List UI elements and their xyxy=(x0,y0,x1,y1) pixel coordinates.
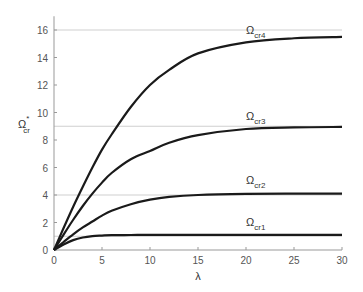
x-tick-label: 10 xyxy=(144,255,156,266)
y-tick-label: 16 xyxy=(37,25,49,36)
y-tick-label: 6 xyxy=(42,163,48,174)
y-tick-label: 8 xyxy=(42,135,48,146)
series-line-Ωcr3 xyxy=(54,127,342,250)
x-tick-label: 15 xyxy=(192,255,204,266)
x-tick-label: 25 xyxy=(288,255,300,266)
x-tick-label: 0 xyxy=(51,255,57,266)
x-tick-label: 5 xyxy=(99,255,105,266)
chart-container: 0510152025300246810121416λΩ*crΩcr1Ωcr2Ωc… xyxy=(0,0,363,292)
series-label-Ωcr2: Ωcr2 xyxy=(246,174,266,190)
y-tick-label: 12 xyxy=(37,80,49,91)
series-label-Ωcr1: Ωcr1 xyxy=(246,216,266,232)
y-tick-label: 14 xyxy=(37,53,49,64)
y-tick-label: 0 xyxy=(42,245,48,256)
y-tick-label: 2 xyxy=(42,218,48,229)
y-tick-label: 4 xyxy=(42,190,48,201)
x-tick-label: 30 xyxy=(336,255,348,266)
line-chart: 0510152025300246810121416λΩ*crΩcr1Ωcr2Ωc… xyxy=(0,0,363,292)
series-label-Ωcr4: Ωcr4 xyxy=(246,24,266,40)
series-line-Ωcr2 xyxy=(54,194,342,250)
y-tick-label: 10 xyxy=(37,108,49,119)
series-label-Ωcr3: Ωcr3 xyxy=(246,110,266,126)
x-tick-label: 20 xyxy=(240,255,252,266)
x-axis-label: λ xyxy=(195,270,201,282)
y-axis-label: Ω*cr xyxy=(18,114,30,135)
